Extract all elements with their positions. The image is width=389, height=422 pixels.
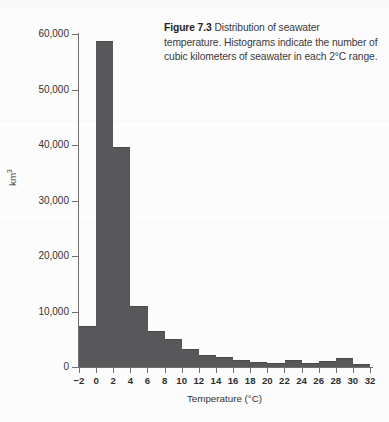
x-axis-tick bbox=[233, 368, 234, 373]
x-axis-tick bbox=[113, 368, 114, 373]
x-axis-tick bbox=[130, 368, 131, 373]
histogram-bar bbox=[148, 331, 165, 367]
histogram-bar bbox=[96, 41, 113, 367]
y-axis-tick bbox=[72, 145, 78, 146]
histogram-bar bbox=[267, 363, 284, 367]
x-axis-tick bbox=[250, 368, 251, 373]
histogram-bar bbox=[165, 339, 182, 367]
histogram-bar bbox=[199, 355, 216, 367]
histogram-bar bbox=[285, 360, 302, 367]
y-axis-tick-label: 40,000 bbox=[7, 139, 69, 150]
x-axis-tick bbox=[147, 368, 148, 373]
y-axis-tick-label: 0 bbox=[7, 361, 69, 372]
histogram-bar bbox=[233, 360, 250, 367]
x-axis-tick-label: 32 bbox=[359, 375, 381, 386]
x-axis-tick bbox=[370, 368, 371, 373]
x-axis-line bbox=[78, 367, 373, 368]
histogram-bar bbox=[250, 362, 267, 367]
histogram-bar bbox=[353, 364, 370, 367]
histogram-bars bbox=[79, 34, 370, 367]
x-axis-tick bbox=[284, 368, 285, 373]
x-axis-tick bbox=[199, 368, 200, 373]
y-axis-tick-label: 20,000 bbox=[7, 250, 69, 261]
y-axis-tick-label: 50,000 bbox=[7, 84, 69, 95]
histogram-bar bbox=[216, 357, 233, 367]
figure-page: Figure 7.3 Distribution of seawater temp… bbox=[0, 0, 389, 422]
histogram-bar bbox=[182, 349, 199, 367]
x-axis-tick bbox=[319, 368, 320, 373]
histogram-bar bbox=[130, 306, 147, 367]
y-axis-tick-label: 30,000 bbox=[7, 195, 69, 206]
y-axis-tick bbox=[72, 256, 78, 257]
y-axis-tick bbox=[72, 367, 78, 368]
x-axis-tick bbox=[79, 368, 80, 373]
histogram-chart: 010,00020,00030,00040,00050,00060,000 −2… bbox=[0, 0, 389, 422]
y-axis-tick-label: 10,000 bbox=[7, 306, 69, 317]
x-axis-tick bbox=[96, 368, 97, 373]
histogram-bar bbox=[336, 358, 353, 367]
x-axis-tick bbox=[216, 368, 217, 373]
x-axis-tick bbox=[353, 368, 354, 373]
x-axis-tick bbox=[336, 368, 337, 373]
x-axis-tick bbox=[302, 368, 303, 373]
histogram-bar bbox=[302, 363, 319, 367]
y-axis-title: km3 bbox=[6, 169, 18, 186]
y-axis-title-base: km bbox=[7, 173, 18, 186]
plot-area bbox=[79, 34, 370, 367]
x-axis-tick bbox=[267, 368, 268, 373]
y-axis-tick bbox=[72, 201, 78, 202]
histogram-bar bbox=[113, 147, 130, 367]
y-axis-title-exponent: 3 bbox=[6, 169, 13, 173]
y-axis-tick-label: 60,000 bbox=[7, 28, 69, 39]
histogram-bar bbox=[79, 326, 96, 367]
y-axis-tick bbox=[72, 34, 78, 35]
x-axis-title: Temperature (°C) bbox=[79, 393, 370, 404]
histogram-bar bbox=[319, 361, 336, 367]
x-axis-tick bbox=[182, 368, 183, 373]
x-axis-tick bbox=[165, 368, 166, 373]
y-axis-tick bbox=[72, 90, 78, 91]
y-axis-tick bbox=[72, 312, 78, 313]
